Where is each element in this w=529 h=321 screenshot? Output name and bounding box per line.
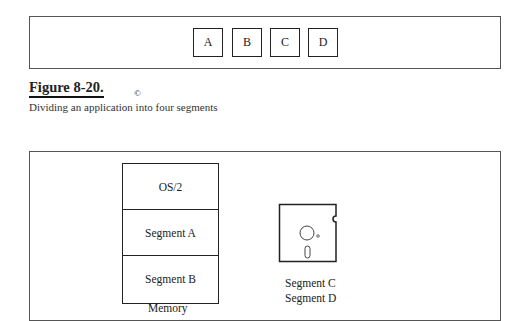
disk-label-segment-c: Segment C [285, 277, 336, 289]
disk-label-segment-d: Segment D [285, 292, 336, 304]
top-panel [29, 16, 501, 69]
memory-stack: OS/2 Segment A Segment B [122, 163, 219, 304]
segment-box-a: A [193, 28, 223, 57]
memory-cell-segment-b: Segment B [123, 256, 218, 302]
memory-cell-os2: OS/2 [123, 164, 218, 210]
segment-label: A [204, 35, 213, 50]
copyright-mark: © [134, 88, 141, 98]
segment-box-d: D [308, 28, 338, 57]
figure-caption: Dividing an application into four segmen… [29, 100, 239, 114]
segment-label: B [243, 35, 251, 50]
bottom-panel [29, 151, 501, 321]
segment-label: C [281, 35, 289, 50]
segment-box-b: B [232, 28, 262, 57]
segment-box-c: C [270, 28, 300, 57]
figure-title: Figure 8-20. [29, 80, 104, 98]
memory-cell-segment-a: Segment A [123, 210, 218, 256]
segment-label: D [319, 35, 328, 50]
floppy-disk-icon [278, 203, 340, 265]
memory-label: Memory [148, 302, 188, 314]
